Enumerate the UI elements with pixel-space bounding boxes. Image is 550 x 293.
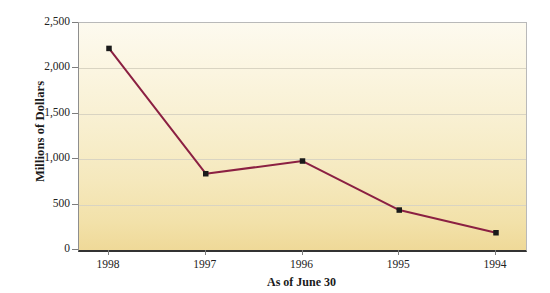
data-point-marker — [300, 158, 306, 164]
x-axis-tick-mark — [205, 250, 206, 255]
x-axis-tick-label: 1996 — [272, 258, 332, 270]
y-axis-tick-mark — [72, 158, 78, 159]
y-axis-tick-label: 0 — [30, 243, 70, 255]
y-axis-tick-label: 2,000 — [30, 61, 70, 73]
y-axis-tick-label: 1,000 — [30, 152, 70, 164]
x-axis-tick-mark — [302, 250, 303, 255]
series-line — [109, 48, 496, 232]
data-series-line — [79, 23, 526, 250]
x-axis-tick-mark — [398, 250, 399, 255]
y-axis-tick-label: 500 — [30, 198, 70, 210]
x-axis-tick-mark — [108, 250, 109, 255]
data-point-marker — [397, 207, 403, 213]
line-chart: Millions of Dollars 05001,0001,5002,0002… — [0, 0, 550, 293]
x-axis-tick-label: 1997 — [175, 258, 235, 270]
plot-area — [78, 22, 527, 252]
data-point-marker — [493, 230, 499, 236]
y-axis-tick-label: 1,500 — [30, 107, 70, 119]
y-axis-tick-mark — [72, 249, 78, 250]
x-axis-tick-mark — [495, 250, 496, 255]
x-axis-tick-label: 1998 — [78, 258, 138, 270]
y-axis-tick-mark — [72, 67, 78, 68]
data-point-marker — [203, 171, 209, 177]
y-axis-tick-mark — [72, 204, 78, 205]
y-axis-tick-mark — [72, 22, 78, 23]
data-point-marker — [106, 46, 112, 52]
x-axis-title: As of June 30 — [78, 275, 525, 290]
x-axis-tick-label: 1995 — [368, 258, 428, 270]
y-axis-tick-label-group: 05001,0001,5002,0002,500 — [28, 0, 70, 293]
y-axis-tick-mark — [72, 113, 78, 114]
x-axis-tick-label: 1994 — [465, 258, 525, 270]
y-axis-tick-label: 2,500 — [30, 16, 70, 28]
